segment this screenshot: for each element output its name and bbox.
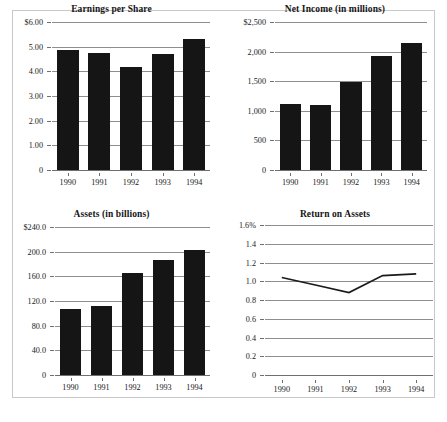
y-axis-tick xyxy=(50,252,54,253)
chart-title-net-income: Net Income (in millions) xyxy=(223,4,447,14)
y-axis-tick xyxy=(260,338,264,339)
y-axis-label: 0 xyxy=(262,166,266,175)
x-axis-label: 1994 xyxy=(397,178,427,187)
y-axis-label: 2,000 xyxy=(248,47,266,56)
x-axis-tick xyxy=(194,173,195,176)
x-axis-label: 1992 xyxy=(115,178,147,187)
x-axis-line xyxy=(52,170,210,171)
y-axis-label: 1.00 xyxy=(29,141,43,150)
y-axis-tick xyxy=(260,281,264,282)
bar-cell xyxy=(55,227,86,375)
y-axis-label: 3.00 xyxy=(29,92,43,101)
bar xyxy=(57,50,79,170)
x-axis-label: 1992 xyxy=(332,385,366,394)
x-axis-label: 1993 xyxy=(366,385,400,394)
bar xyxy=(91,306,113,375)
bar xyxy=(120,67,142,170)
y-axis-tick xyxy=(50,227,54,228)
y-axis-tick xyxy=(50,276,54,277)
y-axis-label: 1.2 xyxy=(246,258,256,267)
y-axis-label: 1.0 xyxy=(246,277,256,286)
x-axis-label: 1990 xyxy=(275,178,305,187)
plot-area-net-income: 05001,0001,5002,000$2,500 xyxy=(275,22,427,170)
bar-series xyxy=(55,227,210,375)
y-axis-tick xyxy=(47,22,51,23)
y-axis-label: 1.6% xyxy=(239,221,256,230)
bar-cell xyxy=(336,22,366,170)
y-axis-tick xyxy=(260,375,264,376)
x-axis-tick xyxy=(99,173,100,176)
x-axis-labels-earnings-per-share: 19901991199219931994 xyxy=(52,174,210,187)
y-axis-tick xyxy=(260,244,264,245)
y-axis-label: 0 xyxy=(42,371,46,380)
chart-panel-net-income: Net Income (in millions) 05001,0001,5002… xyxy=(223,0,447,205)
bar xyxy=(153,260,175,375)
y-axis-tick xyxy=(50,350,54,351)
chart-title-assets: Assets (in billions) xyxy=(0,209,223,219)
x-axis-tick xyxy=(133,378,134,381)
bar xyxy=(340,82,361,170)
y-axis-label: 4.00 xyxy=(29,67,43,76)
plot-area-return-on-assets: 00.20.40.60.81.01.21.41.6% xyxy=(265,225,433,375)
x-axis-label: 1991 xyxy=(305,178,335,187)
x-axis-label: 1994 xyxy=(399,385,433,394)
bar xyxy=(184,250,206,375)
y-axis-label: 40.0 xyxy=(32,346,46,355)
x-axis-tick xyxy=(321,173,322,176)
y-axis-tick xyxy=(47,145,51,146)
bar-cell xyxy=(397,22,427,170)
bar xyxy=(310,105,331,170)
x-axis-labels-assets: 19901991199219931994 xyxy=(55,379,210,392)
x-axis-label: 1994 xyxy=(179,383,210,392)
x-axis-line xyxy=(55,375,210,376)
bar xyxy=(88,53,110,170)
y-axis-tick xyxy=(260,319,264,320)
y-axis-label: 0 xyxy=(252,371,256,380)
x-axis-label: 1991 xyxy=(84,178,116,187)
x-axis-tick xyxy=(164,378,165,381)
y-axis-tick xyxy=(47,121,51,122)
y-axis-tick xyxy=(270,22,274,23)
y-axis-tick xyxy=(260,263,264,264)
x-axis-label: 1993 xyxy=(366,178,396,187)
x-axis-tick xyxy=(290,173,291,176)
y-axis-label: 5.00 xyxy=(29,42,43,51)
x-axis-tick xyxy=(68,173,69,176)
x-axis-line xyxy=(275,170,427,171)
x-axis-tick xyxy=(383,380,384,383)
bar-cell xyxy=(275,22,305,170)
x-axis-label: 1990 xyxy=(52,178,84,187)
y-axis-label: 80.0 xyxy=(32,321,46,330)
bar xyxy=(280,104,301,170)
y-axis-label: 200.0 xyxy=(28,247,46,256)
y-axis-tick xyxy=(270,81,274,82)
line-path xyxy=(282,274,416,293)
x-axis-labels-return-on-assets: 19901991199219931994 xyxy=(265,381,433,394)
y-axis-tick xyxy=(47,47,51,48)
y-axis-tick xyxy=(50,301,54,302)
bar xyxy=(371,56,392,170)
y-axis-tick xyxy=(47,71,51,72)
y-axis-label: 120.0 xyxy=(28,297,46,306)
bar-cell xyxy=(305,22,335,170)
x-axis-labels-net-income: 19901991199219931994 xyxy=(275,174,427,187)
bar-series xyxy=(275,22,427,170)
y-axis-label: 500 xyxy=(254,136,266,145)
y-axis-tick xyxy=(270,140,274,141)
plot-area-earnings-per-share: 01.002.003.004.005.00$6.00 xyxy=(52,22,210,170)
x-axis-tick xyxy=(71,378,72,381)
bar-cell xyxy=(179,227,210,375)
x-axis-label: 1990 xyxy=(55,383,86,392)
bar-cell xyxy=(84,22,116,170)
bar-cell xyxy=(86,227,117,375)
chart-panel-assets: Assets (in billions) 040.080.0120.0160.0… xyxy=(0,205,223,422)
bar-cell xyxy=(148,227,179,375)
bar xyxy=(183,39,205,170)
x-axis-tick xyxy=(351,173,352,176)
y-axis-tick xyxy=(260,300,264,301)
x-axis-label: 1994 xyxy=(178,178,210,187)
y-axis-tick xyxy=(47,96,51,97)
x-axis-tick xyxy=(349,380,350,383)
x-axis-tick xyxy=(416,380,417,383)
x-axis-tick xyxy=(131,173,132,176)
